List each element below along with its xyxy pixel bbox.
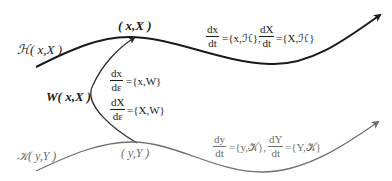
equation-rhs-yK: ={y,𝒦},	[229, 142, 266, 153]
point-label-xX: ( x,X )	[118, 19, 152, 32]
equation-rhs-xW: ={x,W}	[126, 76, 161, 87]
point-label-yY: ( y,Y )	[121, 147, 149, 159]
fraction-dY-dt: dY dt	[268, 134, 283, 159]
fraction-dX-deps: dX dε	[110, 97, 125, 122]
fraction-dy-dt: dy dt	[213, 134, 226, 159]
transformed-flow-curve	[36, 122, 378, 172]
fraction-dX-dt: dX dt	[259, 24, 274, 49]
generator-label: W( x,X )	[46, 90, 91, 103]
fraction-dx-deps: dx dε	[110, 68, 123, 93]
equation-rhs-XW: ={X,W}	[127, 105, 165, 116]
equation-rhs-2: ={X,ℋ}	[276, 33, 314, 44]
hamiltonian-label: ℋ( x,X )	[17, 43, 62, 56]
equation-rhs-1: ={x,ℋ},	[222, 33, 261, 44]
equation-rhs-YK: ={Y,𝒦}	[285, 142, 321, 153]
fraction-dx-dt: dx dt	[206, 24, 219, 49]
transformed-hamiltonian-label: 𝒦( y,Y )	[17, 150, 56, 162]
